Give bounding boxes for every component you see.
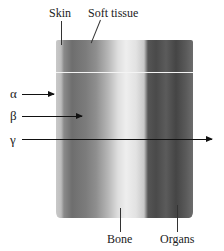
tissue-slab <box>56 40 193 218</box>
leader-bone <box>120 208 121 232</box>
leader-skin <box>61 21 62 45</box>
surface-line <box>56 72 193 73</box>
label-skin: Skin <box>49 7 71 20</box>
beta-symbol: β <box>10 109 17 122</box>
leader-organs <box>177 205 178 232</box>
label-soft-tissue: Soft tissue <box>88 7 138 20</box>
beta-arrow <box>22 116 82 117</box>
gamma-arrow <box>22 139 212 140</box>
label-bone: Bone <box>107 233 132 246</box>
gamma-symbol: γ <box>10 133 16 146</box>
alpha-arrow <box>22 94 54 95</box>
label-organs: Organs <box>160 233 194 246</box>
alpha-symbol: α <box>10 87 17 100</box>
